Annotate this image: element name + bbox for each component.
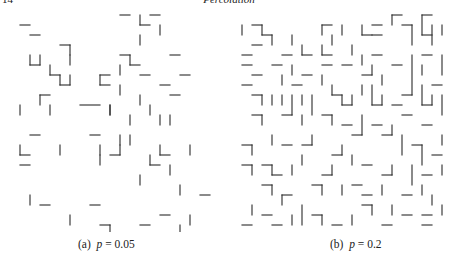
caption-a: (a) p = 0.05 bbox=[78, 238, 135, 250]
bond-lattice-high-p bbox=[228, 10, 458, 232]
caption-a-symbol: p bbox=[97, 238, 103, 250]
caption-b-label: (b) bbox=[330, 238, 343, 250]
caption-a-label: (a) bbox=[78, 238, 91, 250]
chapter-title: Percolation bbox=[0, 0, 458, 5]
caption-a-value: = 0.05 bbox=[105, 238, 135, 250]
caption-b-value: = 0.2 bbox=[358, 238, 382, 250]
lattice-panel-b bbox=[228, 10, 458, 232]
running-head: 14 Percolation bbox=[0, 0, 458, 5]
caption-b: (b) p = 0.2 bbox=[330, 238, 382, 250]
lattice-panel-a bbox=[0, 10, 228, 232]
caption-b-symbol: p bbox=[349, 238, 355, 250]
bond-lattice-low-p bbox=[0, 10, 228, 232]
